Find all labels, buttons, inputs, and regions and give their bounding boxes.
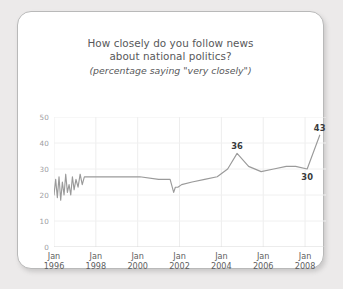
x-axis-tick-label: Jan2004: [200, 252, 242, 272]
x-tick-year: 1996: [44, 261, 65, 271]
data-point-annotation: 30: [297, 172, 317, 182]
chart-subtitle: (percentage saying "very closely"): [18, 65, 323, 77]
x-tick-month: Jan: [299, 251, 311, 261]
chart-plot-area: [54, 117, 326, 247]
x-axis-tick-label: Jan2006: [242, 252, 284, 272]
x-axis-tick-label: Jan1998: [75, 252, 117, 272]
vertical-gridlines: [54, 117, 305, 247]
x-axis-tick-label: Jan2002: [159, 252, 201, 272]
x-axis-tick-label: Jan2008: [284, 252, 326, 272]
x-tick-year: 2008: [295, 261, 316, 271]
x-tick-year: 2004: [211, 261, 232, 271]
x-axis-tick-label: Jan2000: [117, 252, 159, 272]
x-tick-year: 2000: [127, 261, 148, 271]
x-tick-month: Jan: [215, 251, 227, 261]
x-tick-month: Jan: [48, 251, 60, 261]
x-tick-year: 2006: [253, 261, 274, 271]
y-axis-tick-label: 0: [33, 243, 49, 252]
x-tick-year: 1998: [86, 261, 107, 271]
x-axis-tick-label: Jan1996: [33, 252, 75, 272]
data-line-very-closely: [54, 135, 320, 200]
page-title-line-2: about national politics?: [18, 50, 323, 63]
y-axis-tick-label: 40: [33, 139, 49, 148]
x-tick-month: Jan: [257, 251, 269, 261]
line-chart-svg: [54, 117, 326, 247]
x-tick-year: 2002: [169, 261, 190, 271]
chart-card: How closely do you follow news about nat…: [17, 11, 324, 269]
chart-title-block: How closely do you follow news about nat…: [18, 37, 323, 77]
y-axis-tick-label: 30: [33, 165, 49, 174]
data-point-annotation: 43: [310, 123, 330, 133]
y-axis-tick-label: 20: [33, 191, 49, 200]
y-axis-tick-label: 50: [33, 113, 49, 122]
y-axis-tick-label: 10: [33, 217, 49, 226]
x-tick-month: Jan: [90, 251, 102, 261]
page-title-line-1: How closely do you follow news: [18, 37, 323, 50]
data-point-annotation: 36: [227, 141, 247, 151]
x-tick-month: Jan: [131, 251, 143, 261]
x-tick-month: Jan: [173, 251, 185, 261]
